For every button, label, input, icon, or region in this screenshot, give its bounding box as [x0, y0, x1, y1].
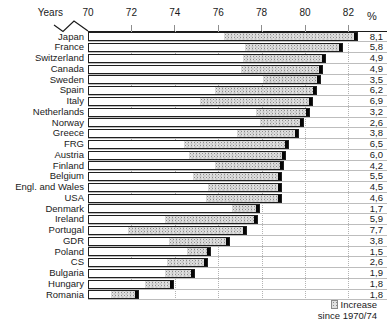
- bar-increase-segment: [165, 270, 194, 277]
- increase-percent-label: 1,8: [370, 279, 383, 290]
- bar-end-cap: [191, 270, 194, 277]
- bar-base-segment: [89, 76, 263, 83]
- country-label: Netherlands: [0, 107, 84, 118]
- x-axis-title: Years: [0, 7, 63, 18]
- bar-hungary: [88, 280, 174, 289]
- bar-end-cap: [322, 55, 325, 62]
- bar-increase-segment: [243, 55, 324, 62]
- bar-switzerland: [88, 54, 326, 63]
- bar-base-segment: [89, 173, 193, 180]
- bar-increase-segment: [263, 76, 321, 83]
- bar-increase-segment: [200, 98, 312, 105]
- bar-end-cap: [295, 130, 298, 137]
- bar-end-cap: [319, 66, 322, 73]
- bar-finland: [88, 161, 284, 170]
- row-poland: Poland1,5: [0, 247, 390, 258]
- bar-increase-segment: [237, 130, 299, 137]
- bar-increase-segment: [260, 119, 302, 126]
- row-hungary: Hungary1,8: [0, 279, 390, 290]
- bar-increase-segment: [184, 141, 287, 148]
- bar-canada: [88, 65, 323, 74]
- bar-end-cap: [204, 259, 207, 266]
- row-greece: Greece3,8: [0, 128, 390, 139]
- bar-base-segment: [89, 66, 241, 73]
- bar-netherlands: [88, 108, 310, 117]
- increase-percent-label: 4,9: [370, 64, 383, 75]
- bar-increase-segment: [128, 227, 246, 234]
- row-netherlands: Netherlands3,2: [0, 107, 390, 118]
- bar-base-segment: [89, 162, 215, 169]
- x-tick-label-70: 70: [82, 7, 93, 18]
- bar-base-segment: [89, 130, 237, 137]
- bar-italy: [88, 97, 313, 106]
- bar-base-segment: [89, 216, 165, 223]
- bar-poland: [88, 247, 211, 256]
- bar-base-segment: [89, 259, 167, 266]
- bar-end-cap: [300, 119, 303, 126]
- bar-japan: [88, 32, 358, 41]
- bar-spain: [88, 86, 317, 95]
- bar-increase-segment: [232, 205, 259, 212]
- bar-base-segment: [89, 44, 245, 51]
- row-usa: USA4,6: [0, 193, 390, 204]
- bar-base-segment: [89, 119, 260, 126]
- increase-percent-label: 3,8: [370, 236, 383, 247]
- bar-end-cap: [278, 173, 281, 180]
- increase-percent-label: 6,0: [370, 150, 383, 161]
- x-tick-label-82: 82: [343, 7, 354, 18]
- bar-portugal: [88, 226, 247, 235]
- country-label: Canada: [0, 64, 84, 75]
- bar-frg: [88, 140, 289, 149]
- bar-end-cap: [254, 216, 257, 223]
- bar-increase-segment: [215, 87, 316, 94]
- bar-bulgaria: [88, 269, 195, 278]
- bar-base-segment: [89, 248, 187, 255]
- bar-base-segment: [89, 238, 169, 245]
- x-tick-label-76: 76: [213, 7, 224, 18]
- bar-increase-segment: [245, 44, 342, 51]
- legend-increase-label: Increase: [341, 299, 377, 310]
- row-sweden: Sweden3,5: [0, 75, 390, 86]
- bar-ireland: [88, 215, 258, 224]
- bar-end-cap: [282, 152, 285, 159]
- bar-france: [88, 43, 343, 52]
- bar-increase-segment: [208, 184, 281, 191]
- bar-increase-segment: [169, 238, 229, 245]
- legend-line-2: since 1970/74: [318, 311, 377, 322]
- bar-end-cap: [278, 195, 281, 202]
- bar-end-cap: [278, 184, 281, 191]
- bar-end-cap: [285, 141, 288, 148]
- country-label: GDR: [0, 236, 84, 247]
- bar-increase-segment: [193, 173, 281, 180]
- bar-end-cap: [170, 281, 173, 288]
- bar-end-cap: [280, 162, 283, 169]
- chart-rows: Japan8,1France5,8Switzerland4,9Canada4,9…: [0, 32, 390, 301]
- row-portugal: Portugal7,7: [0, 225, 390, 236]
- row-gdr: GDR3,8: [0, 236, 390, 247]
- row-spain: Spain6,2: [0, 85, 390, 96]
- x-tick-label-80: 80: [299, 7, 310, 18]
- row-engl-and-wales: Engl. and Wales4,5: [0, 182, 390, 193]
- bar-base-segment: [89, 291, 111, 298]
- bar-increase-segment: [215, 162, 283, 169]
- country-label: Romania: [0, 290, 84, 301]
- x-tick-label-74: 74: [169, 7, 180, 18]
- bar-end-cap: [306, 109, 309, 116]
- bar-cs: [88, 258, 208, 267]
- bar-engl-and-wales: [88, 183, 282, 192]
- increase-percent-label: 3,2: [370, 107, 383, 118]
- bar-increase-segment: [165, 216, 257, 223]
- bar-end-cap: [256, 205, 259, 212]
- bar-base-segment: [89, 55, 243, 62]
- bar-increase-segment: [224, 33, 358, 40]
- bar-base-segment: [89, 184, 208, 191]
- legend-line-1: Increase: [318, 300, 377, 311]
- increase-percent-label: 4,6: [370, 193, 383, 204]
- bar-end-cap: [354, 33, 357, 40]
- x-tick-label-72: 72: [126, 7, 137, 18]
- bar-increase-segment: [167, 259, 207, 266]
- life-expectancy-bar-chart: Years % 70727476788082 Japan8,1France5,8…: [0, 0, 390, 336]
- bar-greece: [88, 129, 299, 138]
- bar-belgium: [88, 172, 282, 181]
- bar-increase-segment: [206, 195, 281, 202]
